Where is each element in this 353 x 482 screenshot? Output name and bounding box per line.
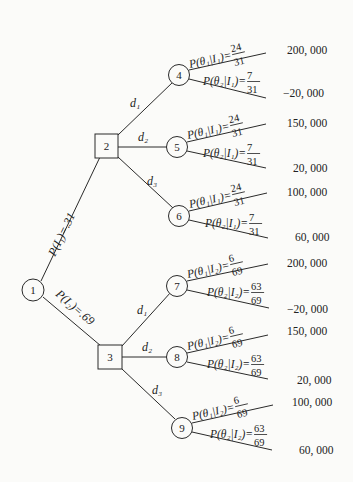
branch-probability-theta1: P(θ₁|I₁)=2431 (186, 181, 248, 218)
decision-label: d₃ (147, 174, 157, 188)
fraction-numerator: 63 (251, 353, 262, 364)
payoff: 150, 000 (287, 117, 328, 130)
probability-p2-label: P(θ₂|I₂)= (209, 428, 253, 441)
branch-probability-theta1: P(θ₁|I₁)=2431 (184, 112, 246, 149)
payoff: −20, 000 (283, 87, 324, 100)
decision-label: d₁ (130, 96, 140, 110)
branch-probability-theta1: P(θ₁|I₂)=669 (189, 393, 251, 430)
branch-probability-theta2: P(θ₂|I₂)=6369 (209, 423, 267, 448)
edge-2-6 (118, 157, 173, 208)
decision-tree: 1 2 3 4 5 6 7 8 9 P(I₁)=.31 P(I₂)=.69 d₁… (0, 0, 353, 482)
probability-p1-label: P(θ₁|I₂)= (190, 401, 236, 424)
fraction-numerator: 24 (228, 112, 241, 125)
branch-label-I2: P(I₂)=.69 (52, 286, 97, 328)
fraction-denominator: 31 (247, 156, 258, 167)
payoff: 60, 000 (295, 231, 330, 244)
payoff: 150, 000 (287, 325, 328, 338)
payoff: 20, 000 (293, 162, 328, 175)
branch-probability-theta2: P(θ₂|I₂)=6369 (206, 281, 264, 306)
fraction-numerator: 7 (247, 70, 252, 81)
fraction-numerator: 6 (233, 394, 241, 406)
branch-probability-theta1: P(θ₁|I₁)=2431 (186, 41, 248, 78)
fraction-denominator: 31 (233, 55, 246, 68)
payoff: 60, 000 (299, 444, 334, 457)
decision-label: d₃ (152, 383, 162, 397)
fraction-numerator: 7 (247, 142, 252, 153)
node-label: 5 (174, 141, 180, 153)
branch-probability-theta1: P(θ₁|I₂)=669 (184, 251, 246, 288)
branch-label-I1: P(I₁)=.31 (45, 210, 78, 259)
node-label: 7 (174, 280, 180, 292)
fraction-denominator: 69 (231, 265, 244, 278)
node-label: 1 (30, 284, 36, 296)
fraction-denominator: 69 (251, 367, 262, 378)
probability-p2-label: P(θ₂|I₁)= (202, 75, 246, 88)
node-label: 9 (179, 422, 185, 434)
fraction-denominator: 69 (236, 407, 249, 420)
branch-probability-theta2: P(θ₂|I₂)=6369 (206, 353, 264, 378)
payoff: 100, 000 (292, 396, 333, 409)
branch-probability-theta2: P(θ₂|I₁)=731 (202, 70, 260, 95)
fraction-numerator: 24 (230, 181, 243, 194)
payoff: 100, 000 (287, 186, 328, 199)
fraction-numerator: 63 (251, 281, 262, 292)
node-label: 8 (174, 351, 180, 363)
fraction-numerator: 24 (230, 41, 243, 54)
probability-p1-label: P(θ₁|I₂)= (185, 259, 231, 282)
node-label: 6 (176, 210, 182, 222)
probability-p1-label: P(θ₁|I₁)= (187, 49, 233, 72)
payoff: 20, 000 (297, 374, 332, 387)
probability-p1-label: P(θ₁|I₁)= (187, 189, 233, 212)
branch-probability-theta2: P(θ₂|I₁)=731 (202, 142, 260, 167)
node-label: 2 (104, 140, 110, 152)
edge-3-7 (122, 292, 171, 346)
probability-p2-label: P(θ₂|I₁)= (204, 217, 248, 230)
decision-label: d₂ (138, 130, 148, 144)
probability-p2-label: P(θ₂|I₂)= (206, 286, 250, 299)
edge-2-4 (118, 82, 173, 135)
fraction-numerator: 63 (254, 423, 265, 434)
payoff: 200, 000 (287, 257, 328, 270)
fraction-numerator: 6 (228, 252, 236, 264)
fraction-denominator: 31 (233, 195, 246, 208)
probability-p1-label: P(θ₁|I₁)= (185, 120, 231, 143)
fraction-denominator: 31 (247, 84, 258, 95)
probability-p1-label: P(θ₁|I₂)= (185, 331, 231, 354)
payoff: −20, 000 (287, 303, 328, 316)
branch-probability-theta1: P(θ₁|I₂)=669 (184, 323, 246, 360)
decision-label: d₁ (137, 303, 147, 317)
fraction-denominator: 31 (231, 126, 244, 139)
fraction-numerator: 7 (249, 212, 254, 223)
probability-p2-label: P(θ₂|I₁)= (202, 147, 246, 160)
fraction-denominator: 69 (251, 295, 262, 306)
node-label: 4 (176, 69, 182, 81)
branch-probability-theta2: P(θ₂|I₁)=731 (204, 212, 262, 237)
fraction-numerator: 6 (228, 324, 236, 336)
fraction-denominator: 69 (254, 437, 265, 448)
fraction-denominator: 69 (231, 337, 244, 350)
decision-label: d₂ (142, 340, 152, 354)
node-label: 3 (107, 351, 113, 363)
payoff: 200, 000 (287, 44, 328, 57)
edge-3-9 (122, 369, 175, 419)
fraction-denominator: 31 (249, 226, 260, 237)
probability-p2-label: P(θ₂|I₂)= (206, 358, 250, 371)
